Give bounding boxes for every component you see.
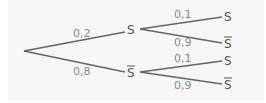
leaf-sbar-sbar: S <box>224 78 232 92</box>
prob-label-sbar-sbar: 0,9 <box>174 79 192 92</box>
leaf-s-sbar: S <box>224 37 232 51</box>
prob-label-sbar: 0,8 <box>73 65 91 78</box>
probability-tree-diagram: 0,2 0,8 0,1 0,9 0,1 0,9 S S S S S S <box>0 0 266 103</box>
prob-label-sbar-s: 0,1 <box>174 52 192 65</box>
leaf-sbar-s: S <box>224 54 232 68</box>
prob-label-s-sbar: 0,9 <box>174 36 192 49</box>
leaf-s-s: S <box>224 10 232 24</box>
prob-label-s: 0,2 <box>73 27 91 40</box>
prob-label-s-s: 0,1 <box>174 8 192 21</box>
node-s: S <box>127 23 135 37</box>
node-sbar: S <box>127 66 135 80</box>
tree-svg: 0,2 0,8 0,1 0,9 0,1 0,9 S S S S S S <box>0 0 266 103</box>
